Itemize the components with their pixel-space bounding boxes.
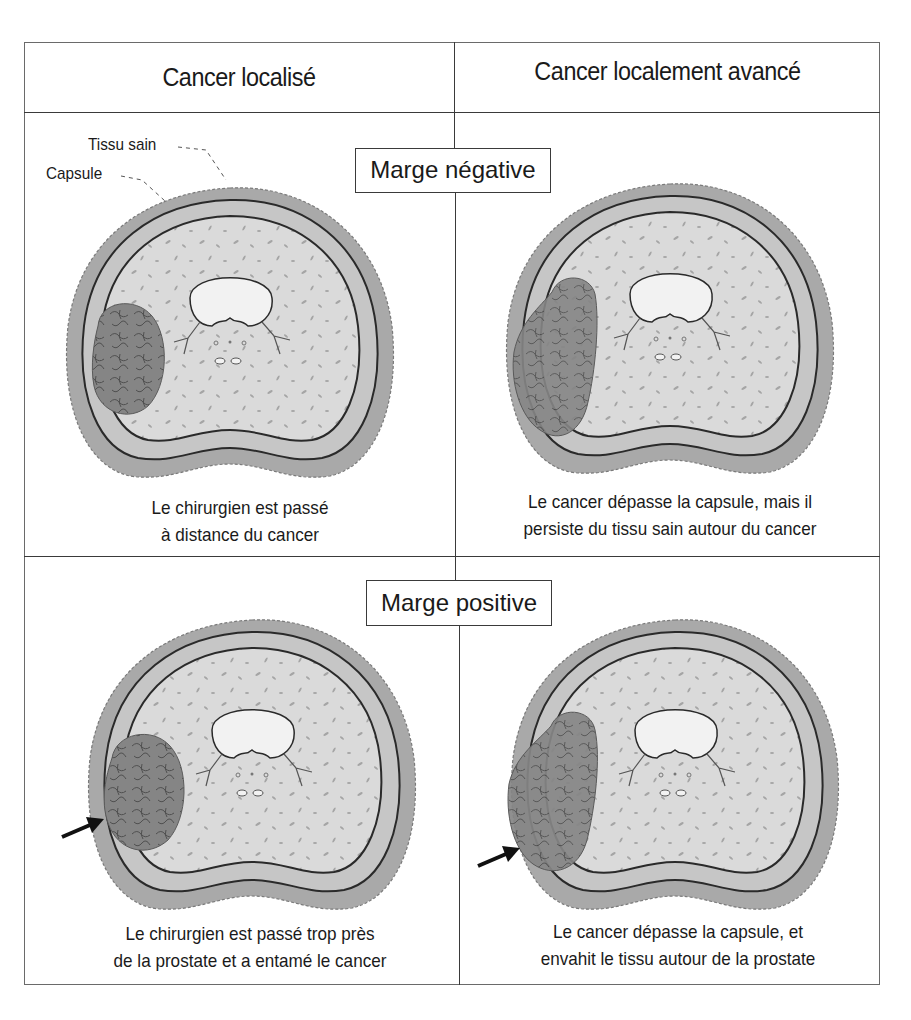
caption-line: Le chirurgien est passé (78, 494, 402, 521)
caption-line: Le chirurgien est passé trop près (79, 920, 421, 947)
caption-line: Le cancer dépasse la capsule, et (498, 918, 858, 945)
caption-line: Le cancer dépasse la capsule, mais il (490, 488, 850, 515)
caption-line: de la prostate et a entamé le cancer (79, 947, 421, 974)
caption-line: envahit le tissu autour de la prostate (498, 945, 858, 972)
caption-line: persiste du tissu sain autour du cancer (490, 515, 850, 542)
prostate-localized-negative (60, 176, 400, 486)
arrow-icon (60, 815, 110, 845)
prostate-localized-positive (82, 608, 422, 918)
tumor-shape (104, 734, 184, 850)
caption-line: à distance du cancer (78, 521, 402, 548)
tumor-shape (92, 304, 164, 414)
caption-localized-negative: Le chirurgien est passé à distance du ca… (78, 494, 402, 548)
prostate-advanced-positive (505, 608, 845, 918)
arrow-icon (476, 842, 526, 872)
caption-advanced-negative: Le cancer dépasse la capsule, mais il pe… (490, 488, 850, 542)
caption-localized-positive: Le chirurgien est passé trop près de la … (79, 920, 421, 974)
caption-advanced-positive: Le cancer dépasse la capsule, et envahit… (498, 918, 858, 972)
prostate-advanced-negative (500, 172, 840, 482)
